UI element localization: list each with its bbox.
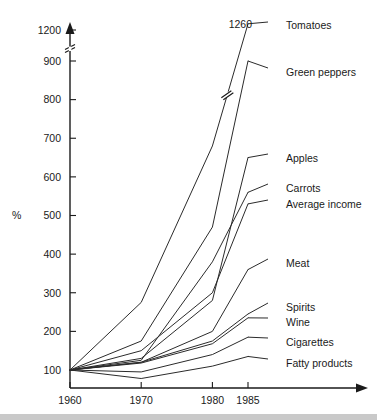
y-axis-tick-label: 1200 [38,24,62,36]
y-axis-tick-label: 300 [43,287,61,299]
series-label: Green peppers [286,66,356,78]
series-label: Tomatoes [286,19,332,31]
series-label: Meat [286,257,309,269]
x-axis-tick-label: 1970 [130,394,154,406]
y-axis-break-gap [69,47,72,52]
y-axis-tick-label: 400 [43,248,61,260]
y-axis-tick-label: 500 [43,209,61,221]
series-leader-line [248,259,268,270]
y-axis-tick-label: 100 [43,364,61,376]
y-axis-title: % [12,209,21,221]
series-label: Spirits [286,301,315,313]
x-axis-tick-label: 1960 [58,394,82,406]
x-axis-tick-label: 1980 [201,394,225,406]
value-annotation-1260: 1260 [229,18,253,30]
series-line [70,270,248,370]
chart-canvas: 1002003004005006007008009001200%19601970… [0,0,377,420]
series-leader-line [248,337,268,338]
series-label: Fatty products [286,357,353,369]
y-axis-arrow [66,22,75,34]
series-label: Carrots [286,182,320,194]
y-axis-tick-label: 600 [43,171,61,183]
series-line [70,24,248,370]
series-line [70,61,248,370]
series-label: Wine [286,316,310,328]
bottom-divider [0,414,377,420]
x-axis-arrow [356,384,368,393]
series-leader-line [248,61,268,68]
series-label: Cigarettes [286,336,334,348]
series-label: Average income [286,198,362,210]
y-axis-tick-label: 700 [43,132,61,144]
series-leader-line [248,200,268,204]
series-label: Apples [286,152,318,164]
series-leader-line [248,356,268,359]
x-axis-tick-label: 1985 [236,394,260,406]
series-leader-line [248,303,268,314]
y-axis-tick-label: 900 [43,55,61,67]
line-chart: 1002003004005006007008009001200%19601970… [0,0,377,420]
y-axis-tick-label: 800 [43,93,61,105]
series-line [70,314,248,370]
series-leader-line [248,184,268,192]
y-axis-tick-label: 200 [43,325,61,337]
series-leader-line [248,154,268,158]
